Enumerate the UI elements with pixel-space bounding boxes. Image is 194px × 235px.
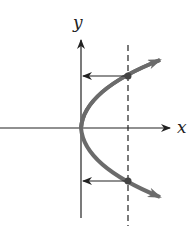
y-axis-label: y [73,14,83,31]
upper-intersection-point [125,73,132,80]
x-axis-label: x [177,119,187,136]
parabola-diagram [0,0,194,235]
lower-intersection-point [125,178,132,185]
